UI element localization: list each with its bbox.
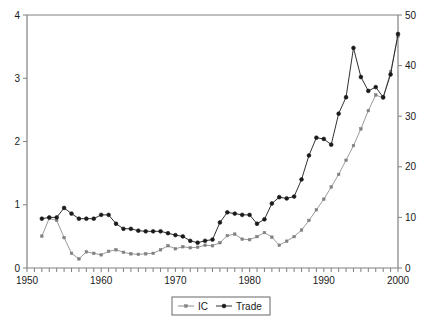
data-point-ic xyxy=(70,252,73,255)
data-point-trade xyxy=(144,229,148,233)
data-point-ic xyxy=(219,241,222,244)
chart-legend: ICTrade xyxy=(172,297,270,315)
data-point-ic xyxy=(204,244,207,247)
data-point-trade xyxy=(374,85,378,89)
data-point-trade xyxy=(174,233,178,237)
data-point-ic xyxy=(293,235,296,238)
data-point-ic xyxy=(226,234,229,237)
line-chart: 195019601970198019902000 01234 010203040… xyxy=(0,0,442,325)
data-point-trade xyxy=(359,75,363,79)
y-axis-right-tick-label: 30 xyxy=(405,111,417,122)
data-point-trade xyxy=(211,238,215,242)
y-axis-right-tick-label: 0 xyxy=(405,263,411,274)
data-point-trade xyxy=(47,216,51,220)
legend-marker-trade xyxy=(222,304,226,308)
data-point-trade xyxy=(188,239,192,243)
data-point-ic xyxy=(167,244,170,247)
data-point-ic xyxy=(345,159,348,162)
data-point-trade xyxy=(107,213,111,217)
data-point-ic xyxy=(85,251,88,254)
y-axis-right-tick-label: 10 xyxy=(405,212,417,223)
data-point-trade xyxy=(114,222,118,226)
data-point-trade xyxy=(84,217,88,221)
data-point-trade xyxy=(329,143,333,147)
data-point-ic xyxy=(367,109,370,112)
data-point-ic xyxy=(271,236,274,239)
data-point-ic xyxy=(248,238,251,241)
x-axis-tick-label: 1960 xyxy=(90,275,113,286)
data-point-ic xyxy=(241,238,244,241)
data-point-ic xyxy=(278,244,281,247)
data-point-ic xyxy=(130,253,133,256)
data-point-ic xyxy=(196,246,199,249)
data-point-trade xyxy=(136,229,140,233)
data-point-trade xyxy=(77,217,81,221)
data-point-trade xyxy=(196,241,200,245)
data-point-ic xyxy=(152,252,155,255)
legend-label-ic: IC xyxy=(198,301,208,312)
data-point-trade xyxy=(396,32,400,36)
data-point-trade xyxy=(225,210,229,214)
y-axis-right-tick-label: 40 xyxy=(405,60,417,71)
data-point-ic xyxy=(308,219,311,222)
data-point-ic xyxy=(315,209,318,212)
y-axis-left-tick-label: 1 xyxy=(14,199,20,210)
data-point-ic xyxy=(337,173,340,176)
data-point-trade xyxy=(166,231,170,235)
data-point-ic xyxy=(144,253,147,256)
x-axis-tick-label: 1970 xyxy=(164,275,187,286)
data-point-ic xyxy=(78,258,81,261)
y-axis-right-tick-label: 20 xyxy=(405,161,417,172)
data-point-ic xyxy=(92,252,95,255)
data-point-ic xyxy=(374,94,377,97)
data-point-trade xyxy=(344,95,348,99)
y-axis-left-tick-label: 4 xyxy=(14,10,20,21)
data-point-trade xyxy=(129,227,133,231)
data-point-ic xyxy=(174,247,177,250)
data-point-trade xyxy=(292,195,296,199)
data-point-ic xyxy=(100,254,103,257)
data-point-ic xyxy=(122,251,125,254)
data-point-trade xyxy=(151,229,155,233)
y-axis-right-tick-label: 50 xyxy=(405,10,417,21)
data-point-trade xyxy=(300,178,304,182)
data-point-trade xyxy=(55,216,59,220)
data-point-ic xyxy=(285,240,288,243)
chart-background xyxy=(0,0,442,325)
data-point-trade xyxy=(314,136,318,140)
data-point-trade xyxy=(285,197,289,201)
data-point-ic xyxy=(263,231,266,234)
data-point-trade xyxy=(62,206,66,210)
data-point-trade xyxy=(70,212,74,216)
data-point-ic xyxy=(115,248,118,251)
data-point-trade xyxy=(159,229,163,233)
data-point-trade xyxy=(203,239,207,243)
data-point-ic xyxy=(323,198,326,201)
data-point-trade xyxy=(389,73,393,77)
y-axis-left-tick-label: 2 xyxy=(14,136,20,147)
data-point-ic xyxy=(211,244,214,247)
x-axis-tick-label: 1980 xyxy=(238,275,261,286)
data-point-trade xyxy=(255,222,259,226)
data-point-trade xyxy=(366,89,370,93)
x-axis-tick-label: 2000 xyxy=(387,275,410,286)
data-point-trade xyxy=(218,221,222,225)
data-point-ic xyxy=(63,236,66,239)
data-point-ic xyxy=(300,229,303,232)
data-point-ic xyxy=(330,186,333,189)
data-point-trade xyxy=(122,227,126,231)
data-point-ic xyxy=(137,253,140,256)
data-point-trade xyxy=(233,212,237,216)
data-point-ic xyxy=(360,128,363,131)
data-point-trade xyxy=(181,234,185,238)
data-point-trade xyxy=(248,213,252,217)
data-point-trade xyxy=(337,112,341,116)
y-axis-left-tick-label: 0 xyxy=(14,263,20,274)
legend-label-trade: Trade xyxy=(236,301,262,312)
data-point-trade xyxy=(322,137,326,141)
data-point-trade xyxy=(92,217,96,221)
chart-container: 195019601970198019902000 01234 010203040… xyxy=(0,0,442,325)
data-point-ic xyxy=(189,246,192,249)
x-axis-tick-label: 1990 xyxy=(313,275,336,286)
data-point-trade xyxy=(270,202,274,206)
